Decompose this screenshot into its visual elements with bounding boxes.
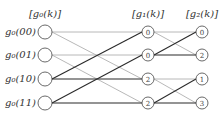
stage2-node: 2 bbox=[196, 49, 208, 61]
svg-text:0: 0 bbox=[200, 29, 204, 37]
input-node bbox=[38, 48, 52, 62]
stage1-node: 2 bbox=[142, 73, 154, 85]
butterfly-diagram: [g₀(k)] [g₁(k)] [g₂(k)] g₀(00) g₀(01) g₀… bbox=[0, 0, 222, 118]
svg-text:2: 2 bbox=[146, 100, 150, 108]
svg-text:0: 0 bbox=[146, 52, 150, 60]
svg-text:3: 3 bbox=[200, 100, 204, 108]
svg-text:0: 0 bbox=[146, 29, 150, 37]
stage2-node: 3 bbox=[196, 97, 208, 109]
input-node bbox=[38, 96, 52, 110]
stage2-node: 1 bbox=[196, 73, 208, 85]
stage1-node: 0 bbox=[142, 49, 154, 61]
stage1-node: 0 bbox=[142, 26, 154, 38]
graph-canvas: 00220213 bbox=[0, 0, 222, 118]
stage1-node: 2 bbox=[142, 97, 154, 109]
svg-text:2: 2 bbox=[200, 52, 204, 60]
input-node bbox=[38, 25, 52, 39]
stage2-node: 0 bbox=[196, 26, 208, 38]
input-node bbox=[38, 72, 52, 86]
svg-text:2: 2 bbox=[146, 76, 150, 84]
svg-text:1: 1 bbox=[200, 76, 204, 84]
